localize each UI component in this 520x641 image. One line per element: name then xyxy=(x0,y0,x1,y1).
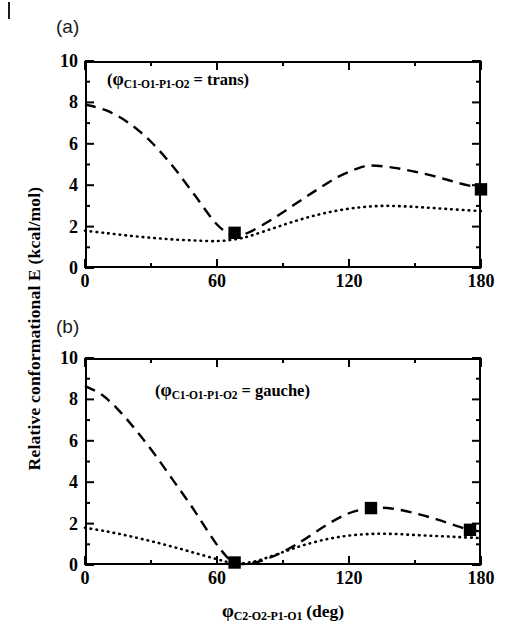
y-tick-label-b: 2 xyxy=(69,515,78,533)
y-tick-label-a: 0 xyxy=(69,259,78,277)
plot-canvas-a xyxy=(85,61,481,268)
y-tick-label-a: 10 xyxy=(60,52,78,70)
annotation-a: (φC1-O1-P1-O2 = trans) xyxy=(107,69,249,90)
data-marker-b xyxy=(464,524,476,536)
chart-panel-b: (φC1-O1-P1-O2 = gauche) 0246810060120180 xyxy=(85,358,481,565)
series-dotted-b xyxy=(85,528,481,564)
y-tick-label-b: 4 xyxy=(69,473,78,491)
x-tick-label-b: 0 xyxy=(81,569,90,587)
annotation-a-phi: φ xyxy=(113,69,124,89)
y-tick-label-b: 6 xyxy=(69,432,78,450)
annotation-b-subscript: C1-O1-P1-O2 xyxy=(172,389,238,401)
figure-root: Relative conformational E (kcal/mol) (a)… xyxy=(0,0,520,641)
panel-a-label: (a) xyxy=(56,16,79,38)
x-tick-label-b: 60 xyxy=(208,569,226,587)
annotation-b-tail: = gauche) xyxy=(237,381,310,400)
x-axis-phi: φ xyxy=(222,600,234,621)
y-tick-label-a: 8 xyxy=(69,93,78,111)
series-dashed-b xyxy=(85,386,481,564)
x-tick-label-a: 0 xyxy=(81,272,90,290)
y-tick-label-a: 6 xyxy=(69,135,78,153)
x-axis-subscript: C2-O2-P1-O1 xyxy=(234,609,302,623)
data-marker-b xyxy=(365,502,377,514)
x-tick-label-a: 180 xyxy=(468,272,495,290)
x-tick-label-b: 120 xyxy=(336,569,363,587)
panel-b-label: (b) xyxy=(56,316,79,338)
y-axis-title: Relative conformational E (kcal/mol) xyxy=(24,119,45,539)
series-dashed-a xyxy=(85,104,481,236)
y-tick-label-b: 10 xyxy=(60,349,78,367)
x-axis-title: φC2-O2-P1-O1(deg) xyxy=(85,600,481,624)
y-tick-label-b: 8 xyxy=(69,390,78,408)
x-tick-label-a: 120 xyxy=(336,272,363,290)
y-tick-label-a: 4 xyxy=(69,176,78,194)
y-tick-label-b: 0 xyxy=(69,556,78,574)
annotation-a-tail: = trans) xyxy=(189,70,249,89)
crop-corner-mark xyxy=(8,2,10,19)
x-tick-label-a: 60 xyxy=(208,272,226,290)
data-marker-b xyxy=(228,556,240,568)
annotation-b: (φC1-O1-P1-O2 = gauche) xyxy=(155,380,310,401)
x-tick-label-b: 180 xyxy=(468,569,495,587)
annotation-a-subscript: C1-O1-P1-O2 xyxy=(124,78,190,90)
y-tick-label-a: 2 xyxy=(69,218,78,236)
data-marker-a xyxy=(228,227,240,239)
annotation-b-phi: φ xyxy=(161,380,172,400)
data-marker-a xyxy=(475,183,487,195)
x-axis-units: (deg) xyxy=(306,601,344,621)
chart-panel-a: (φC1-O1-P1-O2 = trans) 0246810060120180 xyxy=(85,61,481,268)
